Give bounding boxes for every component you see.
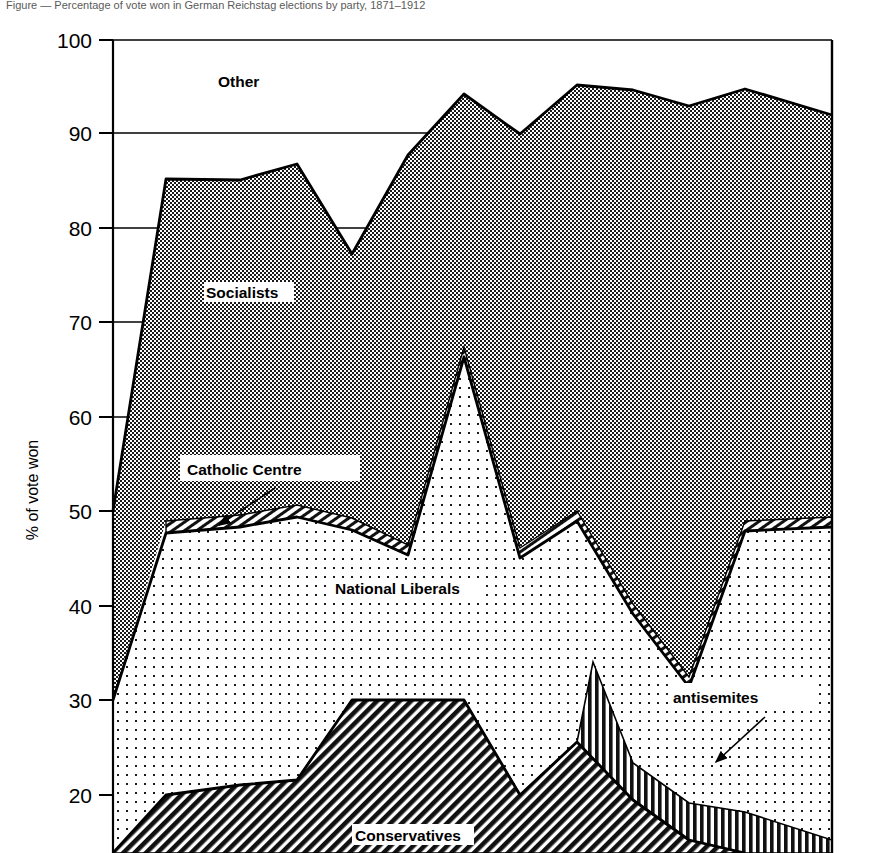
y-axis-ticks	[99, 40, 113, 795]
y-tick-label: 20	[69, 784, 92, 807]
y-tick-label: 100	[57, 29, 92, 52]
y-tick-label: 80	[69, 217, 92, 240]
y-tick-label: 70	[69, 311, 92, 334]
series-label-conservatives: Conservatives	[352, 824, 474, 845]
stacked-area-chart: 100 90 80 70 60 50 40 30 20 % of vote wo…	[0, 0, 873, 853]
callout-antisemites-text: antisemites	[673, 689, 758, 706]
y-axis-title: % of vote won	[24, 440, 41, 541]
y-axis-tick-labels: 100 90 80 70 60 50 40 30 20	[57, 29, 92, 807]
callout-catholic-centre-text: Catholic Centre	[187, 461, 302, 478]
y-tick-label: 50	[69, 500, 92, 523]
y-tick-label: 60	[69, 406, 92, 429]
y-tick-label: 30	[69, 689, 92, 712]
series-label-socialists: Socialists	[204, 282, 294, 302]
series-label-national-liberals: National Liberals	[333, 578, 485, 598]
series-label-conservatives-text: Conservatives	[355, 827, 461, 844]
series-label-other: Other	[216, 71, 270, 91]
series-label-other-text: Other	[218, 73, 259, 90]
series-label-socialists-text: Socialists	[206, 284, 278, 301]
y-tick-label: 90	[69, 122, 92, 145]
y-tick-label: 40	[69, 595, 92, 618]
series-label-national-liberals-text: National Liberals	[335, 580, 460, 597]
